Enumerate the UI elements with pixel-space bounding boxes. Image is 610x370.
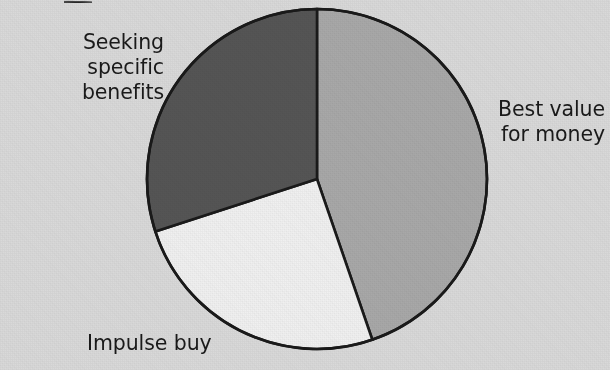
pie-slice-group [147,9,487,349]
pie-label-impulse-buy: Impulse buy [87,331,247,356]
pie-label-seeking-specific-benefits: Seeking specific benefits [8,30,164,105]
cropped-text-artifact [64,0,92,3]
pie-label-best-value-for-money: Best value for money [487,97,605,147]
pie-chart-figure: Seeking specific benefits Best value for… [0,0,610,370]
